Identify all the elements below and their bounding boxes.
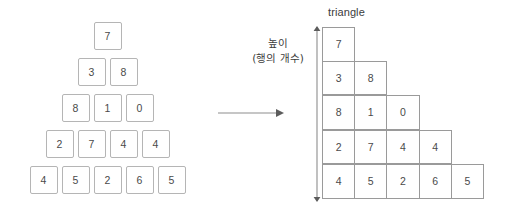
- triangle-grid-cell: 8: [354, 61, 387, 96]
- pyramid-cell: 7: [94, 22, 122, 50]
- triangle-label: triangle: [328, 6, 365, 18]
- triangle-grid-cell: 0: [386, 95, 419, 130]
- pyramid-cell: 8: [110, 58, 138, 86]
- pyramid-row: 7: [0, 22, 215, 50]
- vertical-double-arrow-icon: [310, 22, 324, 206]
- triangle-grid-cell: 2: [322, 130, 355, 165]
- triangle-grid-row: 810: [322, 96, 492, 131]
- triangle-grid-cell: 2: [386, 164, 419, 199]
- triangle-grid-row: 7: [322, 27, 492, 62]
- pyramid-cell: 5: [62, 166, 90, 194]
- pyramid-cell: 2: [46, 130, 74, 158]
- pyramid-cell: 4: [30, 166, 58, 194]
- pyramid-cell: 4: [110, 130, 138, 158]
- pyramid-cell: 8: [62, 94, 90, 122]
- triangle-grid-cell: 4: [386, 130, 419, 165]
- pyramid-cell: 0: [126, 94, 154, 122]
- triangle-grid-cell: 6: [419, 164, 452, 199]
- triangle-grid-cell: 7: [354, 130, 387, 165]
- number-pyramid: 738810274445265: [0, 22, 215, 207]
- triangle-grid-cell: 4: [419, 130, 452, 165]
- height-caption-line2: (행의 개수): [248, 51, 308, 66]
- triangle-grid-row: 38: [322, 62, 492, 97]
- pyramid-row: 810: [0, 94, 215, 122]
- pyramid-row: 2744: [0, 130, 215, 158]
- triangle-grid-cell: 3: [322, 61, 355, 96]
- triangle-grid-cell: 7: [322, 27, 355, 62]
- triangle-grid-cell: 4: [322, 164, 355, 199]
- pyramid-cell: 7: [78, 130, 106, 158]
- triangle-grid-row: 2744: [322, 131, 492, 166]
- pyramid-cell: 2: [94, 166, 122, 194]
- triangle-grid-cell: 8: [322, 95, 355, 130]
- triangle-grid-cell: 5: [354, 164, 387, 199]
- triangle-grid: 738810274445265: [322, 27, 492, 200]
- triangle-grid-cell: 5: [451, 164, 484, 199]
- triangle-grid-cell: 1: [354, 95, 387, 130]
- pyramid-cell: 4: [142, 130, 170, 158]
- pyramid-cell: 6: [126, 166, 154, 194]
- pyramid-row: 38: [0, 58, 215, 86]
- right-arrow-icon: [218, 106, 284, 120]
- pyramid-cell: 5: [158, 166, 186, 194]
- height-caption-line1: 높이: [248, 36, 308, 51]
- pyramid-cell: 3: [78, 58, 106, 86]
- transform-arrow: [218, 106, 284, 120]
- pyramid-row: 45265: [0, 166, 215, 194]
- triangle-grid-row: 45265: [322, 165, 492, 200]
- height-measure-arrow: [310, 22, 324, 206]
- height-caption: 높이 (행의 개수): [248, 36, 308, 66]
- pyramid-cell: 1: [94, 94, 122, 122]
